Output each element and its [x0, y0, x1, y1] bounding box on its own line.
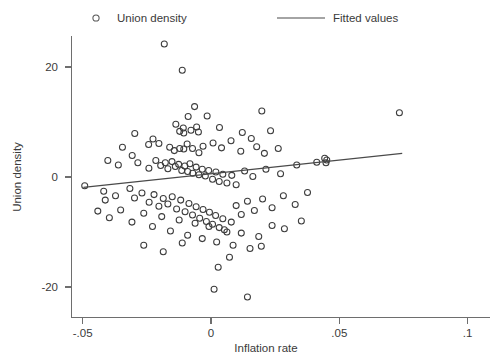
- data-point: [206, 209, 212, 215]
- data-point: [259, 108, 265, 114]
- data-point: [127, 186, 133, 192]
- data-point: [238, 211, 244, 217]
- data-point: [199, 236, 205, 242]
- data-point: [179, 240, 185, 246]
- data-point: [219, 145, 225, 151]
- data-point: [275, 145, 281, 151]
- data-point: [200, 143, 206, 149]
- data-point: [199, 166, 205, 172]
- data-point: [190, 212, 196, 218]
- plot-canvas: Union density Fitted values -.050.05.1 2…: [0, 0, 498, 363]
- x-tick-label: 0: [208, 327, 214, 339]
- data-point: [178, 197, 184, 203]
- data-point: [230, 242, 236, 248]
- data-point: [129, 219, 135, 225]
- data-point: [184, 141, 190, 147]
- x-tick-label: -.05: [73, 327, 93, 339]
- data-point: [106, 215, 112, 221]
- data-point: [119, 144, 125, 150]
- data-point: [278, 171, 284, 177]
- data-point: [220, 216, 226, 222]
- y-axis-ticks: 200-20: [41, 61, 71, 293]
- data-point: [305, 189, 311, 195]
- data-point: [153, 158, 159, 164]
- data-point: [269, 222, 275, 228]
- data-point: [229, 172, 235, 178]
- data-point: [197, 215, 203, 221]
- y-tick-label: 20: [45, 61, 58, 73]
- data-point: [214, 239, 220, 245]
- data-point: [224, 180, 230, 186]
- data-point: [150, 136, 156, 142]
- data-point: [196, 150, 202, 156]
- data-point: [160, 249, 166, 255]
- data-point: [216, 125, 222, 131]
- data-point: [210, 140, 216, 146]
- data-point: [146, 142, 152, 148]
- data-point: [132, 195, 138, 201]
- data-point: [280, 193, 286, 199]
- legend: Union density Fitted values: [93, 12, 399, 24]
- data-point: [151, 192, 157, 198]
- data-point: [215, 264, 221, 270]
- data-point: [204, 113, 210, 119]
- data-point: [182, 209, 188, 215]
- data-point: [190, 145, 196, 151]
- data-point: [156, 203, 162, 209]
- data-point: [162, 160, 168, 166]
- data-point: [206, 167, 212, 173]
- data-point: [187, 161, 193, 167]
- data-point: [161, 41, 167, 47]
- data-point: [149, 224, 155, 230]
- data-point: [213, 169, 219, 175]
- data-point: [192, 104, 198, 110]
- data-point: [244, 294, 250, 300]
- legend-marker-union-density: [93, 15, 99, 21]
- data-point: [244, 198, 250, 204]
- data-point: [260, 196, 266, 202]
- data-point: [139, 190, 145, 196]
- data-point: [118, 207, 124, 213]
- data-point: [200, 206, 206, 212]
- data-point: [160, 195, 166, 201]
- data-point: [173, 121, 179, 127]
- data-point: [210, 176, 216, 182]
- data-point: [238, 230, 244, 236]
- y-tick-label: -20: [41, 281, 58, 293]
- data-point: [238, 148, 244, 154]
- data-point: [226, 254, 232, 260]
- data-point: [261, 150, 267, 156]
- data-point: [185, 114, 191, 120]
- data-point: [174, 206, 180, 212]
- x-axis-ticks: -.050.05.1: [73, 318, 473, 340]
- data-point: [167, 228, 173, 234]
- data-point: [141, 210, 147, 216]
- data-point: [101, 188, 107, 194]
- data-point: [156, 140, 162, 146]
- scatter-plot-figure: Union density Fitted values -.050.05.1 2…: [0, 0, 498, 363]
- y-axis-title: Union density: [11, 142, 23, 212]
- data-point: [188, 127, 194, 133]
- y-tick-label: 0: [52, 171, 58, 183]
- data-point: [251, 208, 257, 214]
- data-point: [298, 218, 304, 224]
- legend-label-fitted-values: Fitted values: [333, 12, 398, 24]
- data-point: [185, 232, 191, 238]
- data-point: [105, 158, 111, 164]
- data-point: [165, 201, 171, 207]
- data-point: [213, 213, 219, 219]
- data-point: [228, 219, 234, 225]
- data-point: [247, 246, 253, 252]
- x-tick-label: .1: [463, 327, 473, 339]
- data-point: [233, 203, 239, 209]
- data-point: [233, 182, 239, 188]
- data-point: [281, 226, 287, 232]
- data-point: [165, 166, 171, 172]
- data-point: [179, 67, 185, 73]
- data-point: [176, 217, 182, 223]
- data-point: [228, 138, 234, 144]
- data-point: [135, 160, 141, 166]
- x-axis-title: Inflation rate: [234, 342, 297, 354]
- data-point: [211, 286, 217, 292]
- legend-label-union-density: Union density: [117, 12, 187, 24]
